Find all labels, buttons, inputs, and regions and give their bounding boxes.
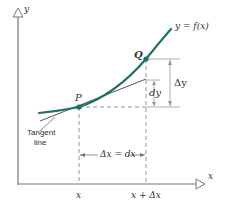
- tangent-line: [40, 79, 146, 121]
- point-q-label: Q: [134, 50, 143, 60]
- curve-f: [39, 29, 171, 113]
- x-plus-dx-tick-label: x + Δx: [131, 191, 161, 200]
- y-axis-label: y: [24, 5, 29, 14]
- curve-label: y = f(x): [175, 22, 209, 31]
- x-tick-label: x: [76, 191, 81, 200]
- dy-arrow-bottom-icon: [152, 102, 156, 106]
- point-q: [143, 56, 148, 61]
- delta-x-dx-label: Δx = dx: [100, 150, 136, 159]
- y-axis-arrow-icon: [13, 8, 23, 17]
- dy-arrow-top-icon: [152, 81, 156, 85]
- delta-y-label: Δy: [174, 78, 187, 88]
- dx-arrow-left-icon: [80, 153, 85, 157]
- x-axis-arrow-icon: [196, 179, 205, 189]
- point-p: [76, 104, 81, 109]
- delta-y-arrow-top-icon: [168, 60, 172, 65]
- differential-diagram: y x y = f(x) P Q Tangent line Δy dy Δx =…: [0, 0, 227, 206]
- tangent-label-line1: Tangent: [27, 129, 55, 137]
- delta-y-arrow-bottom-icon: [168, 101, 172, 106]
- point-p-label: P: [75, 93, 82, 103]
- tangent-label-line2: line: [34, 139, 46, 147]
- dx-arrow-right-icon: [140, 153, 145, 157]
- dy-label: dy: [149, 88, 161, 98]
- x-axis-label: x: [208, 172, 213, 181]
